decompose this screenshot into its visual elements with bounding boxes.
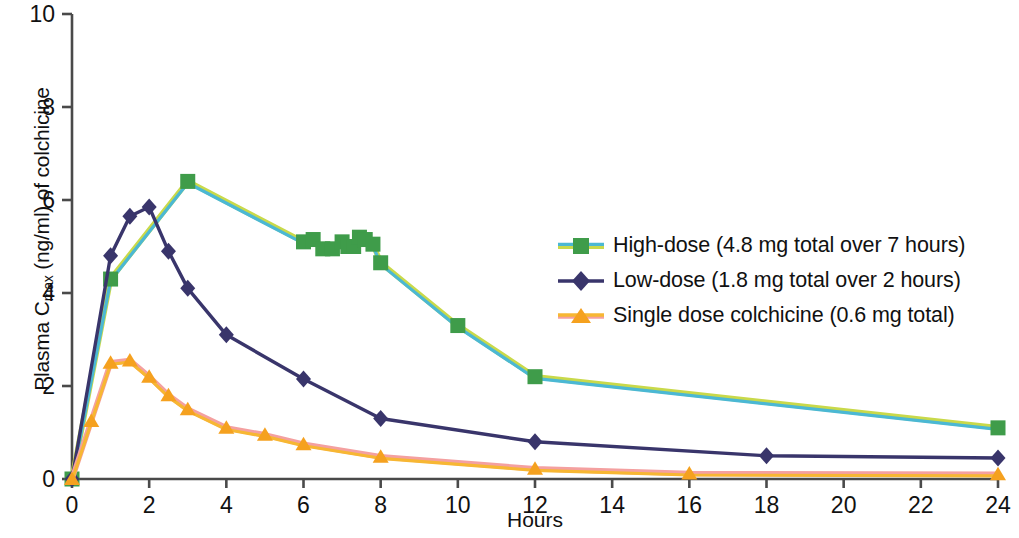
chart-legend: High-dose (4.8 mg total over 7 hours) Lo… bbox=[558, 228, 1008, 333]
data-point-marker bbox=[161, 243, 176, 260]
diamond-marker-icon bbox=[558, 269, 604, 293]
legend-label-single-dose: Single dose colchicine (0.6 mg total) bbox=[613, 303, 955, 328]
data-point-marker bbox=[122, 208, 137, 225]
legend-item-high-dose[interactable]: High-dose (4.8 mg total over 7 hours) bbox=[558, 228, 1008, 263]
data-point-marker bbox=[103, 247, 118, 264]
legend-label-high-dose: High-dose (4.8 mg total over 7 hours) bbox=[613, 233, 965, 258]
data-point-marker bbox=[528, 369, 543, 384]
x-axis-title: Hours bbox=[0, 508, 1019, 532]
square-marker-icon bbox=[558, 234, 604, 258]
data-point-marker bbox=[528, 433, 543, 450]
data-point-marker bbox=[373, 410, 388, 427]
data-point-marker bbox=[759, 447, 774, 464]
data-point-marker bbox=[365, 237, 380, 252]
data-point-marker bbox=[450, 318, 465, 333]
y-tick-label: 0 bbox=[42, 466, 55, 492]
y-axis-title-sub: max bbox=[40, 275, 56, 301]
data-point-marker bbox=[180, 174, 195, 189]
legend-label-low-dose: Low-dose (1.8 mg total over 2 hours) bbox=[613, 268, 961, 293]
data-point-marker bbox=[991, 450, 1006, 467]
chart-container: 0246810121416182022240246810 Plasma Cmax… bbox=[0, 0, 1019, 538]
data-point-marker bbox=[991, 420, 1006, 435]
legend-item-single-dose[interactable]: Single dose colchicine (0.6 mg total) bbox=[558, 298, 1008, 333]
y-axis-title-rest: (ng/ml) of colchicine bbox=[30, 87, 53, 275]
data-point-marker bbox=[373, 255, 388, 270]
triangle-marker-icon bbox=[558, 304, 604, 328]
legend-item-low-dose[interactable]: Low-dose (1.8 mg total over 2 hours) bbox=[558, 263, 1008, 298]
data-point-marker bbox=[296, 371, 311, 388]
y-axis-title-main: Plasma C bbox=[30, 301, 53, 390]
data-point-marker bbox=[142, 198, 157, 215]
y-axis-title: Plasma Cmax (ng/ml) of colchicine bbox=[30, 29, 54, 449]
y-tick-label: 10 bbox=[29, 1, 55, 27]
